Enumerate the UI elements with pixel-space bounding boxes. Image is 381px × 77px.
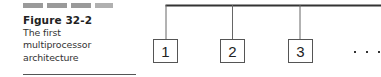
ellipsis-dot bbox=[354, 51, 356, 53]
ellipsis-dot bbox=[378, 51, 380, 53]
continuation-ellipsis bbox=[354, 51, 380, 53]
processor-label: 2 bbox=[228, 43, 236, 60]
processor-node: 1 bbox=[154, 5, 178, 63]
ellipsis-dot bbox=[366, 51, 368, 53]
multiprocessor-diagram: 1 2 3 bbox=[0, 0, 381, 77]
processor-node: 3 bbox=[289, 5, 313, 63]
processor-node: 2 bbox=[221, 5, 245, 63]
processor-label: 3 bbox=[296, 43, 304, 60]
processor-label: 1 bbox=[161, 43, 169, 60]
